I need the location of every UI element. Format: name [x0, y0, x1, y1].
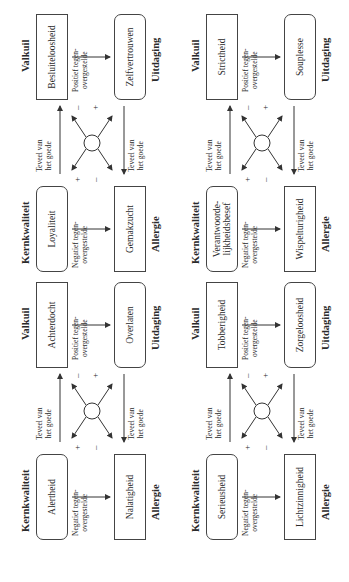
core-quadrant-3: Kernkwaliteit Valkuil Alertheid Achterdo… — [20, 282, 164, 540]
core-quadrant-2: Kernkwaliteit Valkuil Verantwoorde-lijkh… — [190, 14, 334, 272]
too-much-label-bottom: Teveel vanhet goede — [128, 139, 145, 172]
challenge-box: Zorgeloosheid — [284, 282, 316, 368]
challenge-label: Uitdaging — [150, 38, 161, 82]
allergy-label: Allergie — [150, 216, 161, 252]
allergy-box: Gemakzucht — [114, 186, 146, 272]
challenge-box: Zelfvertrouwen — [114, 14, 146, 100]
core-quadrant-1: Kernkwaliteit Valkuil Loyaliteit Besluit… — [20, 14, 164, 272]
allergy-box: Lichtzinnigheid — [284, 454, 316, 540]
allergy-label: Allergie — [320, 216, 331, 252]
challenge-box: Overlaten — [114, 282, 146, 368]
too-much-label-bottom: Teveel vanhet goede — [128, 407, 145, 440]
allergy-label: Allergie — [150, 484, 161, 520]
challenge-box: Souplesse — [284, 14, 316, 100]
allergy-label: Allergie — [320, 484, 331, 520]
allergy-box: Nalatigheid — [114, 454, 146, 540]
allergy-box: Wispelturigheid — [284, 186, 316, 272]
too-much-label-bottom: Teveel vanhet goede — [298, 139, 315, 172]
challenge-label: Uitdaging — [320, 38, 331, 82]
too-much-label-bottom: Teveel vanhet goede — [298, 407, 315, 440]
challenge-label: Uitdaging — [320, 306, 331, 350]
core-quadrant-4: Kernkwaliteit Valkuil Serieusheid Tobber… — [190, 282, 334, 540]
challenge-label: Uitdaging — [150, 306, 161, 350]
